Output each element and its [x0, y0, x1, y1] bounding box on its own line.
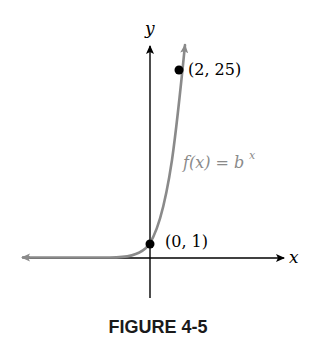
function-label-base: f(x) = b: [182, 153, 244, 172]
exponential-graph: y x (2, 25) (0, 1) f(x) = b x FIGURE 4-5: [0, 0, 317, 343]
x-axis-label: x: [289, 247, 299, 267]
function-label: f(x) = b x: [182, 149, 256, 172]
point-label-0-1: (0, 1): [165, 232, 208, 251]
point-2-25: [175, 66, 184, 75]
y-axis-label: y: [144, 18, 155, 38]
figure-caption: FIGURE 4-5: [108, 317, 207, 337]
exponential-curve: [22, 45, 185, 258]
point-0-1: [146, 240, 155, 249]
function-label-exponent: x: [249, 149, 256, 162]
point-label-2-25: (2, 25): [188, 60, 241, 79]
